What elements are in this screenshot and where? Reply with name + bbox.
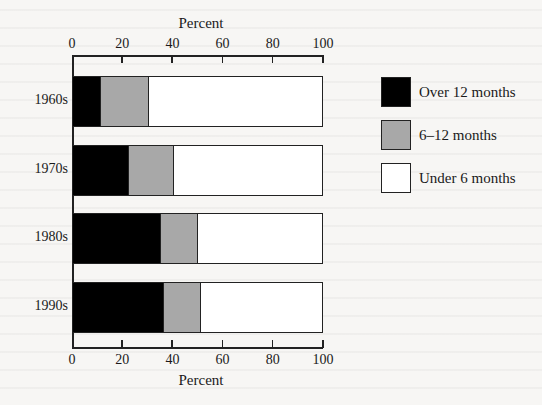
category-label: 1990s xyxy=(8,298,68,314)
bar-segment-over-12-months xyxy=(73,214,160,263)
bottom-tick-mark xyxy=(121,340,123,348)
legend-label: Over 12 months xyxy=(419,84,516,101)
top-tick-label: 0 xyxy=(52,36,92,52)
bar-segment-6-12-months xyxy=(128,146,173,195)
bottom-tick-label: 60 xyxy=(203,352,243,368)
bottom-tick-mark xyxy=(171,340,173,348)
bottom-tick-label: 0 xyxy=(52,352,92,368)
bar-segment-over-12-months xyxy=(73,77,100,126)
bar-segment-6-12-months xyxy=(160,214,197,263)
bottom-tick-label: 40 xyxy=(152,352,192,368)
legend-swatch-icon xyxy=(381,163,411,193)
bar-1980s xyxy=(72,213,323,264)
top-tick-mark xyxy=(272,55,274,63)
top-tick-label: 40 xyxy=(152,36,192,52)
legend-item: Under 6 months xyxy=(381,163,516,193)
bottom-axis-line xyxy=(72,347,323,349)
category-label: 1970s xyxy=(8,161,68,177)
bar-1970s xyxy=(72,145,323,196)
top-tick-label: 20 xyxy=(102,36,142,52)
legend-swatch-icon xyxy=(381,77,411,107)
top-tick-label: 80 xyxy=(253,36,293,52)
top-tick-mark xyxy=(322,55,324,63)
legend-label: 6–12 months xyxy=(419,127,497,144)
bar-segment-under-6-months xyxy=(173,146,322,195)
bar-segment-6-12-months xyxy=(100,77,147,126)
top-axis-title: Percent xyxy=(141,15,261,32)
top-tick-label: 60 xyxy=(203,36,243,52)
top-axis-line xyxy=(72,55,323,57)
top-tick-label: 100 xyxy=(303,36,343,52)
bar-segment-6-12-months xyxy=(163,283,200,332)
legend-label: Under 6 months xyxy=(419,170,516,187)
top-tick-mark xyxy=(121,55,123,63)
category-label: 1960s xyxy=(8,92,68,108)
bottom-tick-mark xyxy=(322,340,324,348)
legend-item: 6–12 months xyxy=(381,120,497,150)
bottom-axis-title: Percent xyxy=(141,372,261,389)
legend-item: Over 12 months xyxy=(381,77,516,107)
top-tick-mark xyxy=(222,55,224,63)
bar-1990s xyxy=(72,282,323,333)
category-label: 1980s xyxy=(8,229,68,245)
bar-segment-over-12-months xyxy=(73,146,128,195)
top-tick-mark xyxy=(171,55,173,63)
bar-segment-under-6-months xyxy=(148,77,322,126)
bar-1960s xyxy=(72,76,323,127)
bar-segment-under-6-months xyxy=(197,214,322,263)
bottom-tick-mark xyxy=(272,340,274,348)
bottom-tick-label: 100 xyxy=(303,352,343,368)
legend-swatch-icon xyxy=(381,120,411,150)
bar-segment-over-12-months xyxy=(73,283,163,332)
bottom-tick-label: 20 xyxy=(102,352,142,368)
bar-segment-under-6-months xyxy=(200,283,322,332)
bottom-tick-label: 80 xyxy=(253,352,293,368)
bottom-tick-mark xyxy=(222,340,224,348)
